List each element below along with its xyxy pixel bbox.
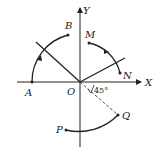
y-axis-label: Y [83, 5, 91, 16]
label-m: M [84, 29, 96, 40]
origin-label: O [67, 86, 75, 97]
label-p: P [55, 124, 63, 135]
point-q [117, 114, 120, 117]
point-p [65, 129, 68, 132]
point-a [31, 81, 34, 84]
point-n [119, 72, 122, 75]
label-b: B [64, 20, 72, 31]
label-n: N [122, 70, 133, 81]
label-q: Q [122, 110, 130, 121]
point-b [67, 34, 70, 37]
arc-pq [66, 115, 118, 131]
label-a: A [24, 87, 32, 98]
angle-label: 45° [94, 86, 108, 95]
x-axis-label: X [144, 77, 153, 88]
arc-ab [32, 35, 68, 82]
point-m [88, 42, 91, 45]
coordinate-diagram: X Y O A B M N 45° P Q [0, 0, 157, 153]
line-ne [80, 58, 125, 82]
line-nw [36, 42, 80, 82]
